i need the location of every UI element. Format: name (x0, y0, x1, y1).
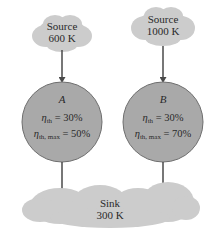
engine-b-name: B (160, 93, 167, 105)
sink-temperature: 300 K (96, 209, 123, 221)
source-a-cloud: Source 600 K (32, 15, 92, 52)
engine-a-name: A (58, 93, 66, 105)
source-b-label: Source (148, 13, 179, 25)
source-a-label: Source (47, 20, 78, 32)
sink-cloud: Sink 300 K (22, 182, 200, 228)
source-a-temperature: 600 K (48, 32, 75, 44)
engine-a: A ηth = 30% ηth, max = 50% (22, 82, 102, 162)
source-b-temperature: 1000 K (147, 25, 180, 37)
source-b-cloud: Source 1000 K (131, 7, 195, 46)
heat-engine-diagram: Source 600 K Source 1000 K A ηth = 30% η… (0, 0, 214, 239)
engine-b: B ηth = 30% ηth, max = 70% (123, 82, 203, 162)
sink-label: Sink (100, 197, 121, 209)
